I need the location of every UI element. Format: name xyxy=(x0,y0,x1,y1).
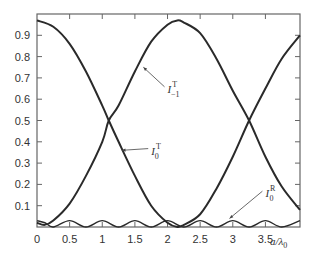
y-tick-label: 0.8 xyxy=(15,51,30,63)
y-tick-label: 0.6 xyxy=(15,93,30,105)
curve-i0-transmitted xyxy=(37,20,300,227)
y-tick-label: 0.1 xyxy=(15,200,30,212)
y-tick-label: 0.4 xyxy=(15,136,30,148)
y-tick-label: 0.3 xyxy=(15,157,30,169)
curve-label: IT−1 xyxy=(167,80,180,99)
leader-line xyxy=(143,67,164,87)
plot-border xyxy=(37,14,300,227)
curve-i-minus1-transmitted xyxy=(37,20,300,225)
y-tick-label: 0.7 xyxy=(15,72,30,84)
x-tick-label: 3 xyxy=(230,233,236,245)
chart-figure: 00.511.522.533.50.10.20.30.40.50.60.70.8… xyxy=(0,0,320,253)
y-tick-label: 0.2 xyxy=(15,178,30,190)
plot-frame xyxy=(37,14,300,227)
x-tick-label: 2.5 xyxy=(193,233,208,245)
leader-line xyxy=(122,149,148,151)
axis-ticks xyxy=(37,14,300,227)
leader-line xyxy=(230,191,263,218)
curve-label: IR0 xyxy=(264,184,276,203)
x-tick-label: 2 xyxy=(164,233,170,245)
curve-label: IT0 xyxy=(150,142,161,161)
data-curves xyxy=(37,20,300,227)
y-tick-label: 0.9 xyxy=(15,29,30,41)
x-axis-label: a/λ0 xyxy=(270,235,287,250)
x-tick-label: 1.5 xyxy=(127,233,142,245)
y-tick-label: 0.5 xyxy=(15,115,30,127)
axis-tick-labels: 00.511.522.533.50.10.20.30.40.50.60.70.8… xyxy=(15,29,273,245)
x-tick-label: 0 xyxy=(34,233,40,245)
x-tick-label: 0.5 xyxy=(62,233,77,245)
x-tick-label: 1 xyxy=(99,233,105,245)
